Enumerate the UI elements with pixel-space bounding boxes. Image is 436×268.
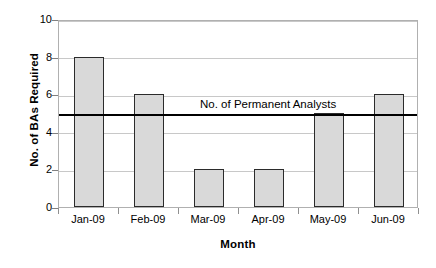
y-tick-label: 10: [12, 14, 52, 25]
x-axis-title: Month: [58, 238, 418, 250]
y-tick-label: 8: [12, 52, 52, 63]
y-tick-label: 6: [12, 89, 52, 100]
bar-may-09: [314, 113, 344, 207]
x-tick-label-jun-09: Jun-09: [351, 213, 425, 226]
y-tick-mark: [52, 95, 58, 96]
bar-mar-09: [194, 169, 224, 207]
y-tick-mark: [52, 170, 58, 171]
y-tick-mark: [52, 133, 58, 134]
y-tick-mark: [52, 20, 58, 21]
y-axis-title: No. of BAs Required: [28, 15, 40, 205]
bar-chart: No. of BAs Required 0246810No. of Perman…: [0, 0, 436, 268]
bar-jan-09: [74, 57, 104, 207]
threshold-line: [59, 114, 417, 116]
bar-feb-09: [134, 94, 164, 207]
y-tick-label: 4: [12, 127, 52, 138]
bar-jun-09: [374, 94, 404, 207]
threshold-label: No. of Permanent Analysts: [200, 98, 336, 110]
y-tick-label: 0: [12, 202, 52, 213]
plot-area: [58, 20, 418, 208]
y-tick-mark: [52, 58, 58, 59]
y-tick-label: 2: [12, 164, 52, 175]
bar-apr-09: [254, 169, 284, 207]
